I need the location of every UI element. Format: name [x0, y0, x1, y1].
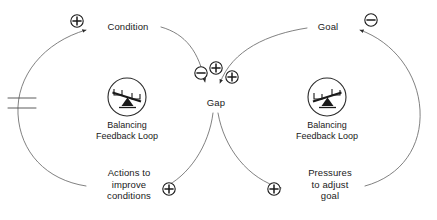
diagram-canvas: Condition Goal Gap Actions to improve co…	[0, 0, 437, 220]
polarity-plus-pressures	[268, 183, 280, 195]
link-pressures-to-goal	[360, 30, 420, 186]
variable-goal: Goal	[305, 21, 351, 33]
polarity-minus-gap	[195, 67, 207, 79]
polarity-plus-condition	[71, 15, 83, 27]
link-gap-to-pressures	[218, 113, 281, 188]
polarity-minus-goal	[365, 14, 377, 26]
causal-loop-diagram-svg	[0, 0, 437, 220]
polarity-plus-gap-right	[226, 71, 238, 83]
polarity-plus-gap-top	[210, 62, 222, 74]
delay-marker	[8, 98, 36, 108]
right-balancing-loop-icon	[308, 78, 346, 116]
variable-actions-to-improve-conditions: Actions to improve conditions	[93, 167, 165, 202]
right-balancing-loop-label: Balancing Feedback Loop	[277, 120, 377, 142]
variable-gap: Gap	[196, 97, 236, 109]
variable-condition: Condition	[98, 21, 158, 33]
left-balancing-loop-label: Balancing Feedback Loop	[77, 120, 177, 142]
variable-pressures-to-adjust-goal: Pressures to adjust goal	[294, 167, 366, 202]
left-balancing-loop-icon	[108, 78, 146, 116]
